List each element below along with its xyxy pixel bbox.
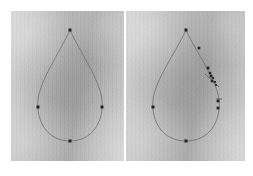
- teardrop-contour: [38, 30, 102, 141]
- cluster-tracked-point-7: [215, 84, 217, 86]
- right-control-point-upper: [217, 100, 220, 103]
- cluster-tracked-point-2: [209, 72, 211, 74]
- cluster-tracked-point-4: [212, 77, 214, 79]
- right-control-point-lower: [217, 107, 220, 110]
- right-panel-overlay: [126, 11, 245, 161]
- left-control-point: [152, 106, 155, 109]
- apex-control-point: [185, 29, 188, 32]
- apex-control-point: [69, 29, 72, 32]
- left-panel-overlay: [11, 11, 124, 161]
- left-control-point: [37, 106, 40, 109]
- cluster-tracked-point-1: [207, 67, 210, 70]
- initial-contour-panel: [11, 11, 124, 161]
- bottom-control-point: [185, 140, 188, 143]
- teardrop-contour: [153, 30, 219, 141]
- figure-canvas: [0, 0, 253, 176]
- upper-edge-tracked-point: [198, 47, 201, 50]
- bottom-control-point: [69, 140, 72, 143]
- tracked-contour-panel: [126, 11, 245, 161]
- right-control-point: [101, 106, 104, 109]
- cluster-tracked-point-5: [211, 80, 214, 83]
- cluster-tracked-point-6: [214, 81, 216, 83]
